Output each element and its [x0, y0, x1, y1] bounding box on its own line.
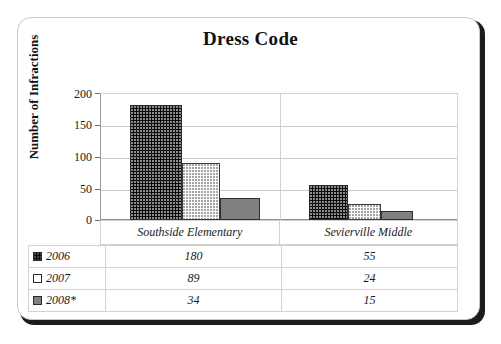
category-label-sevierville: Sevierville Middle — [280, 221, 458, 244]
category-label-row: Southside Elementary Sevierville Middle — [100, 221, 458, 245]
bar-2006-southside[interactable] — [130, 105, 182, 220]
bar-2007-southside[interactable] — [182, 163, 220, 220]
legend-cell-2008: 2008* — [29, 290, 106, 312]
y-tick-label-50: 50 — [58, 182, 92, 197]
bar-2007-sevierville[interactable] — [348, 204, 381, 220]
legend-swatch-gray-square-icon — [33, 296, 42, 305]
value-2008-sevierville: 15 — [282, 290, 458, 312]
legend-label-2007: 2007 — [46, 271, 70, 285]
legend-label-2006: 2006 — [46, 249, 70, 263]
value-2007-southside: 89 — [106, 268, 282, 290]
y-tick-label-0: 0 — [58, 213, 92, 228]
legend-cell-2006: 2006 — [29, 246, 106, 268]
table-row: 2007 89 24 — [29, 268, 458, 290]
plot-area — [100, 93, 458, 221]
bar-2008-southside[interactable] — [220, 198, 260, 220]
legend-swatch-black-square-icon — [33, 252, 42, 261]
value-2006-southside: 180 — [106, 246, 282, 268]
y-tick-label-150: 150 — [58, 118, 92, 133]
table-row: 2006 180 55 — [29, 246, 458, 268]
table-row: 2008* 34 15 — [29, 290, 458, 312]
data-table: 2006 180 55 2007 89 24 2008* 34 15 — [28, 245, 458, 312]
y-tick-label-200: 200 — [58, 87, 92, 102]
y-tick-label-100: 100 — [58, 150, 92, 165]
y-axis-title: Number of Infractions — [26, 27, 44, 167]
value-2008-southside: 34 — [106, 290, 282, 312]
bar-2006-sevierville[interactable] — [309, 185, 348, 220]
value-2007-sevierville: 24 — [282, 268, 458, 290]
page-title: Dress Code — [0, 28, 501, 50]
legend-swatch-white-square-icon — [33, 274, 42, 283]
legend-cell-2007: 2007 — [29, 268, 106, 290]
value-2006-sevierville: 55 — [282, 246, 458, 268]
group-separator — [280, 94, 281, 220]
bar-2008-sevierville[interactable] — [381, 211, 413, 220]
category-label-southside: Southside Elementary — [101, 221, 280, 244]
legend-label-2008: 2008* — [46, 293, 76, 307]
